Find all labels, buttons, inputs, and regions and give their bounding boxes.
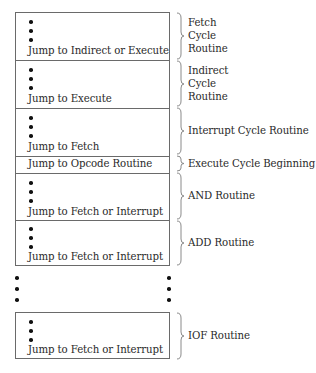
and-routine-label: AND Routine — [188, 189, 255, 202]
brace-icon — [177, 13, 184, 59]
jump-instruction: Jump to Opcode Routine — [28, 158, 152, 169]
execute-cycle-beginning-section: Jump to Opcode Routine — [16, 156, 169, 173]
brace-icon — [177, 221, 184, 265]
add-routine-section: Jump to Fetch or Interrupt — [16, 220, 169, 266]
control-memory-block: Jump to Indirect or Execute Jump to Exec… — [15, 12, 170, 266]
jump-instruction: Jump to Indirect or Execute — [28, 45, 169, 56]
indirect-cycle-routine-label: Indirect Cycle Routine — [188, 64, 228, 103]
brace-icon — [177, 313, 184, 359]
brace-icon — [177, 173, 184, 219]
brace-icon — [177, 156, 184, 171]
add-routine-label: ADD Routine — [188, 236, 254, 249]
jump-instruction: Jump to Execute — [28, 93, 112, 104]
jump-instruction: Jump to Fetch — [28, 141, 99, 152]
iof-routine-block: Jump to Fetch or Interrupt — [15, 312, 170, 359]
jump-instruction: Jump to Fetch or Interrupt — [28, 344, 163, 355]
microprogram-diagram: Jump to Indirect or Execute Jump to Exec… — [0, 0, 316, 373]
brace-icon — [177, 61, 184, 106]
jump-instruction: Jump to Fetch or Interrupt — [28, 251, 163, 262]
jump-instruction: Jump to Fetch or Interrupt — [28, 206, 163, 217]
fetch-cycle-section: Jump to Indirect or Execute — [16, 13, 169, 61]
interrupt-cycle-section: Jump to Fetch — [16, 108, 169, 156]
execute-cycle-beginning-label: Execute Cycle Beginning — [188, 157, 315, 170]
iof-routine-section: Jump to Fetch or Interrupt — [16, 313, 169, 360]
interrupt-cycle-routine-label: Interrupt Cycle Routine — [188, 124, 309, 137]
and-routine-section: Jump to Fetch or Interrupt — [16, 173, 169, 221]
fetch-cycle-routine-label: Fetch Cycle Routine — [188, 16, 228, 55]
iof-routine-label: IOF Routine — [188, 329, 250, 342]
indirect-cycle-section: Jump to Execute — [16, 60, 169, 108]
brace-icon — [177, 108, 184, 154]
